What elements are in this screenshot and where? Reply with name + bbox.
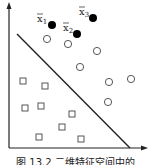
x-axis-arrow-icon [141, 146, 148, 151]
square-point [22, 105, 28, 111]
square-class-points [20, 78, 84, 142]
circle-point [76, 63, 83, 70]
square-point [59, 124, 65, 130]
point-label: x2 [63, 22, 73, 35]
circle-point [64, 40, 71, 47]
square-point [42, 83, 48, 89]
circle-point [43, 35, 50, 42]
axes [7, 2, 149, 151]
support-point [89, 14, 97, 22]
feature-space-diagram: x1x2x3 [0, 0, 151, 165]
circle-class-points [43, 35, 134, 105]
square-point [36, 134, 42, 140]
labeled-support-points: x1x2x3 [37, 6, 97, 38]
square-point [78, 136, 84, 142]
square-point [20, 78, 26, 84]
point-label: x3 [79, 6, 89, 19]
circle-point [127, 75, 134, 82]
square-point [69, 111, 75, 117]
separator-line [17, 34, 130, 148]
decision-boundary [17, 34, 130, 148]
circle-point [104, 98, 111, 105]
support-point [73, 30, 81, 38]
figure-caption: 图 13.2 二维特征空间中的 [0, 154, 151, 165]
square-point [38, 103, 44, 109]
point-label: x1 [37, 13, 47, 26]
support-point [48, 21, 56, 29]
circle-point [93, 47, 100, 54]
y-axis-arrow-icon [7, 2, 12, 9]
circle-point [105, 78, 112, 85]
